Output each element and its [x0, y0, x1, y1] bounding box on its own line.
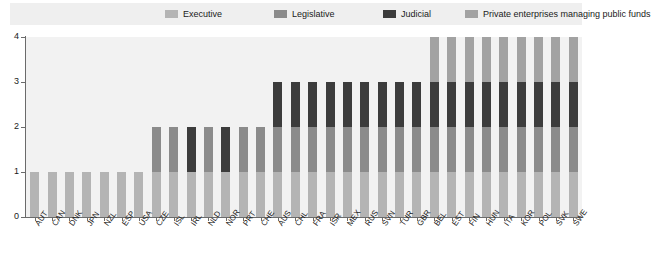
x-tick-mark: [417, 218, 418, 221]
bar-svk[interactable]: [551, 37, 560, 217]
bar-tur[interactable]: [395, 82, 404, 217]
x-tick-mark: [261, 218, 262, 221]
bar-segment-executive: [482, 172, 491, 217]
x-tick-mark: [243, 218, 244, 221]
bar-nld[interactable]: [204, 127, 213, 217]
x-tick-mark: [539, 218, 540, 221]
bar-ita[interactable]: [499, 37, 508, 217]
bar-segment-judicial: [430, 82, 439, 127]
bar-esp[interactable]: [117, 172, 126, 217]
bar-segment-judicial: [517, 82, 526, 127]
bar-nzl[interactable]: [100, 172, 109, 217]
bar-isl[interactable]: [169, 127, 178, 217]
bar-segment-executive: [239, 172, 248, 217]
bar-segment-private-enterprises: [499, 37, 508, 82]
x-tick-mark: [573, 218, 574, 221]
bar-bel[interactable]: [430, 37, 439, 217]
bar-isr[interactable]: [326, 82, 335, 217]
bar-segment-judicial: [569, 82, 578, 127]
bar-chl[interactable]: [291, 82, 300, 217]
legend-label-executive: Executive: [183, 10, 222, 19]
bar-aut[interactable]: [30, 172, 39, 217]
bar-can[interactable]: [48, 172, 57, 217]
bar-gbr[interactable]: [412, 82, 421, 217]
bar-segment-legislative: [326, 127, 335, 172]
bar-fin[interactable]: [465, 37, 474, 217]
bar-segment-judicial: [447, 82, 456, 127]
bar-segment-executive: [134, 172, 143, 217]
bar-segment-judicial: [534, 82, 543, 127]
bar-cze[interactable]: [152, 127, 161, 217]
bar-segment-legislative: [447, 127, 456, 172]
bar-usa[interactable]: [134, 172, 143, 217]
bar-segment-judicial: [187, 127, 196, 172]
x-tick-mark: [226, 218, 227, 221]
bar-segment-legislative: [517, 127, 526, 172]
bar-svn[interactable]: [378, 82, 387, 217]
bar-swe[interactable]: [569, 37, 578, 217]
bar-hun[interactable]: [482, 37, 491, 217]
bar-segment-legislative: [412, 127, 421, 172]
bar-segment-legislative: [465, 127, 474, 172]
x-tick-mark: [452, 218, 453, 221]
bar-segment-legislative: [551, 127, 560, 172]
bar-segment-judicial: [291, 82, 300, 127]
bar-segment-legislative: [360, 127, 369, 172]
bar-segment-judicial: [273, 82, 282, 127]
bar-segment-executive: [343, 172, 352, 217]
legend-swatch-legislative: [274, 10, 287, 18]
bar-che[interactable]: [256, 127, 265, 217]
bar-jpn[interactable]: [82, 172, 91, 217]
bar-segment-judicial: [360, 82, 369, 127]
bar-aus[interactable]: [273, 82, 282, 217]
x-tick-mark: [330, 218, 331, 221]
bar-segment-private-enterprises: [551, 37, 560, 82]
legend-swatch-executive: [165, 10, 178, 18]
x-tick-mark: [469, 218, 470, 221]
x-tick-mark: [347, 218, 348, 221]
x-tick-mark: [174, 218, 175, 221]
bar-segment-private-enterprises: [430, 37, 439, 82]
bar-segment-legislative: [204, 127, 213, 172]
bar-dnk[interactable]: [65, 172, 74, 217]
x-tick-mark: [434, 218, 435, 221]
bar-segment-judicial: [499, 82, 508, 127]
bar-kor[interactable]: [517, 37, 526, 217]
bar-mex[interactable]: [343, 82, 352, 217]
bar-irl[interactable]: [187, 127, 196, 217]
legend-label-legislative: Legislative: [292, 10, 335, 19]
x-tick-mark: [382, 218, 383, 221]
bar-segment-executive: [395, 172, 404, 217]
x-tick-mark: [69, 218, 70, 221]
bar-est[interactable]: [447, 37, 456, 217]
y-tick-mark: [21, 172, 26, 173]
bar-segment-judicial: [343, 82, 352, 127]
bar-segment-executive: [291, 172, 300, 217]
bar-nor[interactable]: [221, 127, 230, 217]
bar-segment-legislative: [239, 127, 248, 172]
bar-segment-private-enterprises: [569, 37, 578, 82]
bar-segment-executive: [499, 172, 508, 217]
bar-segment-executive: [430, 172, 439, 217]
x-tick-mark: [156, 218, 157, 221]
x-tick-mark: [122, 218, 123, 221]
x-tick-mark: [365, 218, 366, 221]
bar-segment-executive: [221, 172, 230, 217]
bar-prt[interactable]: [239, 127, 248, 217]
x-tick-mark: [191, 218, 192, 221]
x-tick-mark: [208, 218, 209, 221]
bar-fra[interactable]: [308, 82, 317, 217]
bar-segment-executive: [117, 172, 126, 217]
bar-segment-judicial: [551, 82, 560, 127]
y-tick-mark: [21, 217, 26, 218]
y-tick-mark: [21, 82, 26, 83]
bar-segment-legislative: [569, 127, 578, 172]
bar-rus[interactable]: [360, 82, 369, 217]
bar-segment-judicial: [378, 82, 387, 127]
x-tick-mark: [486, 218, 487, 221]
bar-segment-legislative: [343, 127, 352, 172]
legend-item-executive: Executive: [165, 3, 222, 25]
bar-pol[interactable]: [534, 37, 543, 217]
y-tick-label: 4: [0, 32, 19, 41]
